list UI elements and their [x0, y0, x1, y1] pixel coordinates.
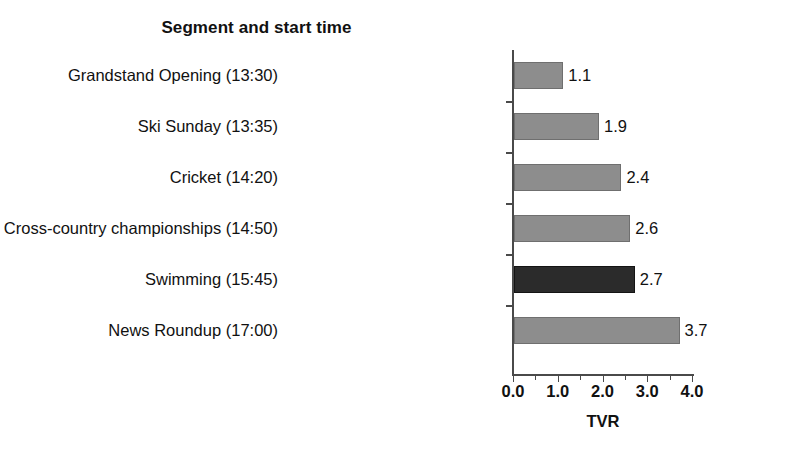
bar: [514, 113, 599, 140]
x-axis-minor-tick: [670, 376, 671, 380]
y-axis-tick: [506, 101, 513, 103]
bar: [514, 215, 630, 242]
bar-value-label: 2.6: [630, 215, 658, 242]
category-label: Cricket (14:20): [170, 152, 287, 203]
bar-value-label: 2.4: [621, 164, 649, 191]
x-axis-tick-label: 3.0: [636, 382, 659, 401]
category-label: News Roundup (17:00): [108, 305, 287, 356]
bar-row: News Roundup (17:00)3.7: [0, 305, 799, 356]
category-label: Grandstand Opening (13:30): [68, 50, 287, 101]
chart-page: Segment and start time Grandstand Openin…: [0, 0, 799, 456]
x-axis-tick-label: 0.0: [502, 382, 525, 401]
x-axis-minor-tick: [580, 376, 581, 380]
x-axis-minor-tick: [535, 376, 536, 380]
x-axis-minor-tick: [625, 376, 626, 380]
x-axis-tick-label: 4.0: [681, 382, 704, 401]
bar-value-label: 1.1: [563, 62, 591, 89]
bar-value-label: 2.7: [635, 266, 663, 293]
bar-row: Grandstand Opening (13:30)1.1: [0, 50, 799, 101]
bar-row: European Cross-country championships (14…: [0, 203, 799, 254]
bar: [514, 164, 621, 191]
category-label: Swimming (15:45): [145, 254, 287, 305]
bar-value-label: 1.9: [599, 113, 627, 140]
bar-row: Ski Sunday (13:35)1.9: [0, 101, 799, 152]
category-label: Ski Sunday (13:35): [138, 101, 287, 152]
y-axis-tick: [506, 203, 513, 205]
category-label: European Cross-country championships (14…: [0, 203, 287, 254]
y-axis-tick: [506, 254, 513, 256]
y-axis-tick: [506, 152, 513, 154]
bar-row: Cricket (14:20)2.4: [0, 152, 799, 203]
bar-value-label: 3.7: [680, 317, 708, 344]
bar: [514, 62, 563, 89]
bar-chart-plot: Grandstand Opening (13:30)1.1Ski Sunday …: [0, 0, 799, 456]
bar: [514, 266, 635, 293]
x-axis-tick-label: 2.0: [591, 382, 614, 401]
x-axis-tick-label: 1.0: [546, 382, 569, 401]
bar-row: Swimming (15:45)2.7: [0, 254, 799, 305]
x-axis-title: TVR: [512, 412, 694, 431]
bar: [514, 317, 680, 344]
y-axis-tick: [506, 305, 513, 307]
